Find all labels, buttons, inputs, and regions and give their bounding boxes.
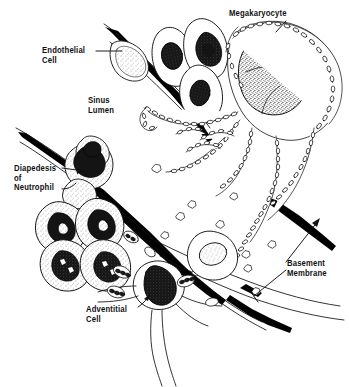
leader-basement-lower bbox=[254, 270, 286, 296]
granulocyte-cluster bbox=[35, 198, 130, 291]
label-sinus-lumen: Sinus Lumen bbox=[88, 96, 114, 115]
label-diapedesis-of-neutrophil: Diapedesis of Neutrophil bbox=[14, 164, 56, 193]
label-adventitial-cell: Adventitial Cell bbox=[86, 305, 127, 324]
endothelial-cell bbox=[110, 41, 148, 81]
label-endothelial-cell: Endothelial Cell bbox=[42, 46, 85, 65]
sinus-lining-cells-top bbox=[152, 19, 228, 121]
label-basement-membrane: Basement Membrane bbox=[287, 259, 327, 278]
sinus-endothelial-cell-lower bbox=[187, 231, 237, 280]
label-megakaryocyte: Megakaryocyte bbox=[229, 9, 287, 19]
bone-marrow-sinus-figure: Endothelial Cell Sinus Lumen Diapedesis … bbox=[0, 0, 349, 387]
